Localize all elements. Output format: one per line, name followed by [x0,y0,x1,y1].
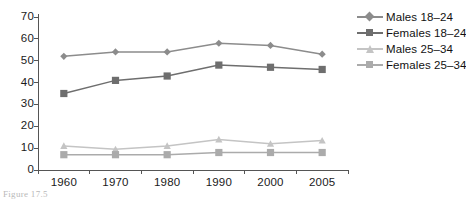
data-point-marker [60,151,67,158]
data-point-marker [112,151,119,158]
legend-label: Males 25–34 [386,43,453,55]
data-point-marker [319,149,326,156]
legend-label: Females 18–24 [386,27,466,39]
data-point-marker [215,61,222,68]
series-1 [60,40,326,60]
legend-marker-diamond-icon [365,12,375,22]
data-point-marker [60,53,67,60]
series-line [64,43,322,56]
data-point-marker [319,66,326,73]
data-point-marker [164,48,171,55]
data-point-marker [164,72,171,79]
series-line [64,139,322,149]
series-2 [60,61,326,97]
legend-item-1[interactable]: Males 18–24 [357,9,466,25]
legend-item-4[interactable]: Females 25–34 [357,57,466,73]
legend-label: Females 25–34 [386,59,466,71]
data-point-marker [112,48,119,55]
series-4 [60,149,326,158]
legend-marker-square-icon [366,61,373,68]
caption-fragment: Figure 17.5 [3,189,48,199]
data-point-marker [164,151,171,158]
data-point-marker [112,77,119,84]
data-point-marker [267,149,274,156]
data-point-marker [267,64,274,71]
legend-swatch-triangle-icon [357,42,383,56]
series-3 [60,136,326,152]
legend-item-2[interactable]: Females 18–24 [357,25,466,41]
data-point-marker [319,51,326,58]
legend-label: Males 18–24 [386,11,453,23]
legend-swatch-square-icon [357,26,383,40]
chart-legend: Males 18–24Females 18–24Males 25–34Femal… [357,9,466,73]
series-line [64,153,322,155]
data-point-marker [215,149,222,156]
data-point-marker [267,42,274,49]
legend-swatch-square-icon [357,58,383,72]
legend-swatch-diamond-icon [357,10,383,24]
series-line [64,65,322,93]
chart-series [60,40,326,159]
data-point-marker [215,40,222,47]
data-point-marker [60,90,67,97]
legend-marker-triangle-icon [366,45,374,53]
chart-screenshot: 010203040506070 196019701980199020002005… [0,0,466,199]
legend-marker-square-icon [366,29,373,36]
legend-item-3[interactable]: Males 25–34 [357,41,466,57]
chart-axes [34,14,348,174]
